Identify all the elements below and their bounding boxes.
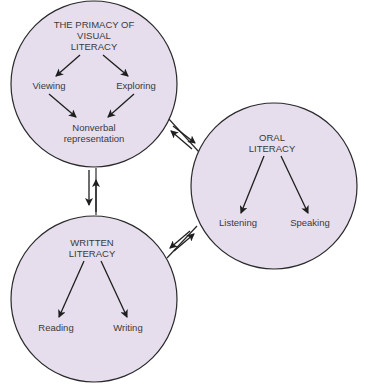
- visual-title-line-1: THE PRIMACY OF: [54, 19, 135, 30]
- connector-visual-written: [89, 168, 96, 215]
- written-title-line-2: LITERACY: [69, 248, 116, 259]
- node-listening: Listening: [219, 217, 257, 228]
- node-nonverbal-line-1: Nonverbal: [72, 122, 115, 133]
- node-reading: Reading: [38, 322, 73, 333]
- node-exploring: Exploring: [116, 80, 156, 91]
- written-literacy-circle: WRITTEN LITERACY Reading Writing: [11, 216, 177, 382]
- oral-title-line-2: LITERACY: [249, 143, 296, 154]
- connector-visual-oral: [168, 118, 199, 152]
- oral-literacy-circle: ORAL LITERACY Listening Speaking: [191, 103, 357, 269]
- visual-title-line-2: VISUAL: [77, 30, 111, 41]
- written-title-line-1: WRITTEN: [70, 237, 113, 248]
- connector-written-oral: [167, 226, 197, 258]
- oral-title-line-1: ORAL: [259, 132, 285, 143]
- node-nonverbal-line-2: representation: [64, 133, 125, 144]
- literacy-diagram: THE PRIMACY OF VISUAL LITERACY Viewing E…: [0, 0, 368, 384]
- visual-title-line-3: LITERACY: [71, 41, 118, 52]
- visual-literacy-circle: THE PRIMACY OF VISUAL LITERACY Viewing E…: [11, 1, 177, 167]
- node-speaking: Speaking: [290, 217, 330, 228]
- node-writing: Writing: [113, 322, 142, 333]
- node-viewing: Viewing: [32, 80, 65, 91]
- arrow-to-oral-icon: [173, 126, 195, 143]
